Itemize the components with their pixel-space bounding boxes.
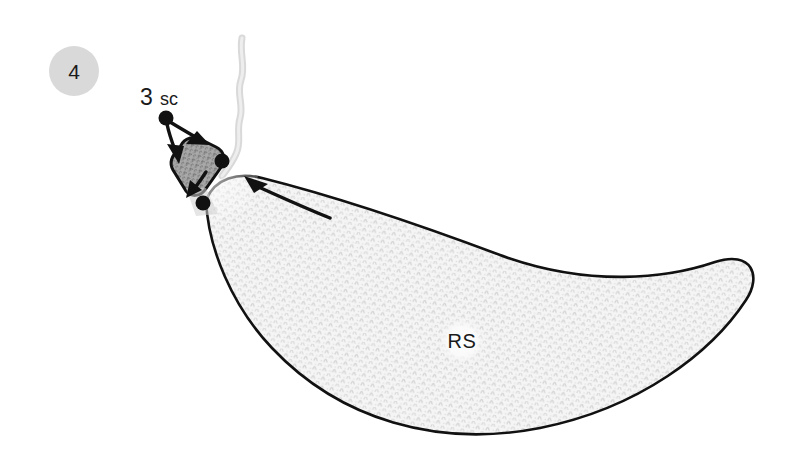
start-dot-upper-left (159, 111, 174, 126)
arrow-across-swatch (170, 122, 210, 145)
step-number-badge: 4 (49, 46, 99, 96)
step-badge-label: 4 (68, 60, 80, 83)
stitch-count-number: 3 (140, 84, 153, 110)
rs-marker-label: RS (448, 330, 477, 352)
crescent-outline (206, 176, 753, 434)
diagram-canvas: 4 (0, 0, 802, 450)
right-side-marker: RS (439, 318, 485, 364)
crochet-step-diagram: 4 (0, 0, 802, 450)
crescent-fabric-body (204, 174, 753, 434)
dot-crescent-tip (196, 196, 211, 211)
stitch-count-annotation: 3 sc (140, 84, 178, 110)
dot-swatch-right (215, 154, 230, 169)
stitch-type-label: sc (160, 89, 178, 109)
